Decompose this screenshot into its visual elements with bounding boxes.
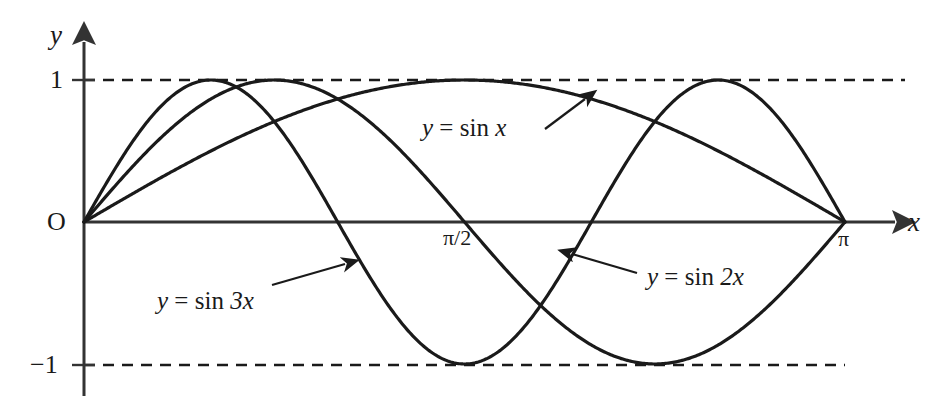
annotation-arrow-sin2x [572,254,637,273]
sine-curves-figure: y x 1 −1 O π/2 π y = sin x y = sin 2x y … [0,0,952,412]
origin-label: O [47,209,66,235]
annotation-sin-x-y: y [422,114,433,141]
annotation-arrow-sinx [545,99,585,129]
annotation-sin-x-eq: = [433,114,460,141]
x-tick-label-pi: π [838,228,849,250]
annotation-sin-3x-y: y [157,287,168,314]
annotation-arrow-sin3x [272,264,345,285]
annotation-sin-x-arg: x [495,114,506,141]
annotation-sin-3x-eq: = [168,287,195,314]
annotation-sin-x: y = sin x [422,115,506,140]
plot-canvas [0,0,952,412]
y-axis-label: y [50,22,62,49]
y-tick-label-1: 1 [50,67,63,93]
y-tick-label-minus-1: −1 [30,352,58,378]
annotation-sin-2x: y = sin 2x [647,264,744,289]
annotation-sin-3x: y = sin 3x [157,288,254,313]
x-tick-label-pi-half: π/2 [443,227,471,249]
annotation-sin-2x-eq: = [658,263,685,290]
x-axis-label: x [908,209,920,236]
annotation-sin-2x-fn: sin [685,263,720,290]
annotation-sin-3x-fn: sin [195,287,230,314]
annotation-sin-2x-y: y [647,263,658,290]
annotation-sin-x-fn: sin [460,114,495,141]
annotation-sin-2x-arg: 2x [720,263,744,290]
annotation-sin-3x-arg: 3x [230,287,254,314]
curve-y-sin-x [84,80,845,222]
